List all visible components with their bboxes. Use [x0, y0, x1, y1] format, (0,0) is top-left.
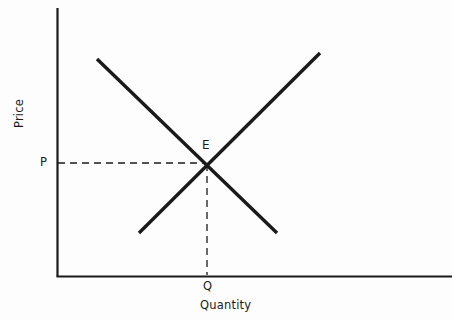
- y-axis-label: Price: [14, 99, 26, 128]
- supply-curve: [139, 53, 320, 233]
- price-tick-label: P: [40, 157, 47, 169]
- equilibrium-point-label: E: [202, 139, 210, 151]
- demand-curve: [97, 59, 277, 233]
- quantity-tick-label: Q: [203, 281, 212, 293]
- chart-canvas: [0, 0, 452, 321]
- supply-demand-figure: Price Quantity P Q E: [0, 0, 452, 321]
- x-axis-label: Quantity: [200, 300, 251, 312]
